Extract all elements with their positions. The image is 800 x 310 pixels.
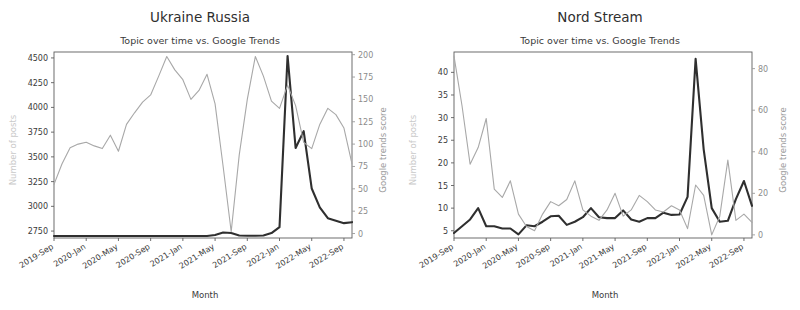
chart-panel-ukraine-russia: Ukraine Russia Topic over time vs. Googl… <box>0 0 400 310</box>
y-tick-label-left: 3750 <box>28 128 48 137</box>
panel-subtitle: Topic over time vs. Google Trends <box>119 35 280 46</box>
chart-svg-nord-stream: Nord Stream Topic over time vs. Google T… <box>400 0 800 310</box>
y-tick-label-left: 15 <box>438 182 448 191</box>
y-axis-left-ticks: 27503000325035003750400042504500 <box>28 54 54 236</box>
figure-container: Ukraine Russia Topic over time vs. Googl… <box>0 0 800 310</box>
plot-frame <box>454 52 752 238</box>
x-tick-label: 2022-Sep <box>308 242 345 270</box>
y-tick-label-right: 0 <box>758 231 763 240</box>
y-tick-label-left: 3250 <box>28 178 48 187</box>
y-tick-label-left: 4250 <box>28 79 48 88</box>
series-line-trends <box>454 56 752 235</box>
y-axis-left-label: Number of posts <box>8 114 18 185</box>
y-tick-label-left: 40 <box>438 68 448 77</box>
x-tick-label: 2022-May <box>674 242 713 271</box>
x-tick-label: 2021-May <box>578 242 617 271</box>
y-tick-label-right: 175 <box>358 73 373 82</box>
plot-area: 27503000325035003750400042504500 0255075… <box>18 51 373 271</box>
series-line-trends <box>54 56 352 231</box>
y-tick-label-right: 100 <box>358 140 373 149</box>
y-tick-label-left: 20 <box>438 159 448 168</box>
y-axis-right-label: Google trends score <box>778 107 788 192</box>
y-tick-label-left: 30 <box>438 114 448 123</box>
x-axis-label: Month <box>592 290 619 300</box>
y-axis-right-ticks: 0255075100125150175200 <box>352 51 373 239</box>
chart-panel-nord-stream: Nord Stream Topic over time vs. Google T… <box>400 0 800 310</box>
y-tick-label-left: 4500 <box>28 54 48 63</box>
y-tick-label-right: 20 <box>758 189 768 198</box>
x-tick-label: 2020-Sep <box>114 242 151 270</box>
plot-area: 510152025303540 020406080 2019-Sep2020-J… <box>418 52 768 271</box>
y-axis-left-ticks: 510152025303540 <box>438 68 454 235</box>
y-tick-label-right: 0 <box>358 230 363 239</box>
y-axis-left-label: Number of posts <box>408 114 418 185</box>
chart-svg-ukraine-russia: Ukraine Russia Topic over time vs. Googl… <box>0 0 400 310</box>
y-tick-label-right: 125 <box>358 118 373 127</box>
y-tick-label-left: 25 <box>438 136 448 145</box>
x-tick-label: 2019-Sep <box>18 242 55 270</box>
y-tick-label-right: 75 <box>358 162 368 171</box>
y-tick-label-left: 35 <box>438 91 448 100</box>
x-axis-ticks: 2019-Sep2020-Jan2020-May2020-Sep2021-Jan… <box>418 238 745 271</box>
x-tick-label: 2020-May <box>81 242 120 271</box>
x-tick-label: 2022-May <box>274 242 313 271</box>
y-tick-label-left: 5 <box>443 227 448 236</box>
panel-subtitle: Topic over time vs. Google Trends <box>519 35 680 46</box>
panel-title: Ukraine Russia <box>150 9 250 25</box>
x-axis-label: Month <box>192 290 219 300</box>
x-tick-label: 2021-Sep <box>211 242 248 270</box>
series-group <box>454 56 752 235</box>
y-tick-label-right: 60 <box>758 106 768 115</box>
y-tick-label-right: 80 <box>758 65 768 74</box>
y-tick-label-right: 25 <box>358 207 368 216</box>
x-tick-label: 2019-Sep <box>418 242 455 270</box>
x-tick-label: 2020-Sep <box>514 242 551 270</box>
y-tick-label-left: 4000 <box>28 103 48 112</box>
y-tick-label-left: 3500 <box>28 153 48 162</box>
y-tick-label-right: 150 <box>358 95 373 104</box>
y-tick-label-left: 2750 <box>28 227 48 236</box>
y-tick-label-right: 40 <box>758 148 768 157</box>
x-tick-label: 2021-Sep <box>611 242 648 270</box>
y-tick-label-right: 200 <box>358 51 373 60</box>
y-tick-label-left: 10 <box>438 204 448 213</box>
panel-title: Nord Stream <box>557 9 642 25</box>
y-tick-label-left: 3000 <box>28 202 48 211</box>
series-line-posts <box>454 59 752 235</box>
y-axis-right-ticks: 020406080 <box>752 65 768 240</box>
y-axis-right-label: Google trends score <box>378 107 388 192</box>
y-tick-label-right: 50 <box>358 185 368 194</box>
series-group <box>54 56 352 236</box>
x-axis-ticks: 2019-Sep2020-Jan2020-May2020-Sep2021-Jan… <box>18 238 345 271</box>
x-tick-label: 2020-May <box>481 242 520 271</box>
x-tick-label: 2021-May <box>178 242 217 271</box>
x-tick-label: 2022-Sep <box>708 242 745 270</box>
